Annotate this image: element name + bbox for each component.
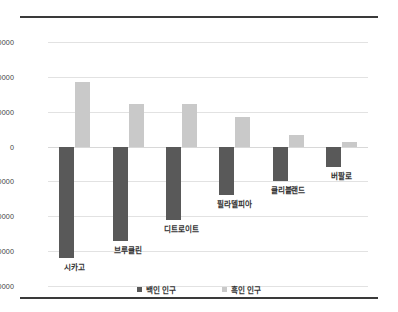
gridline-1500000 [48, 42, 368, 43]
y-tick-label--1500000: -1500000 [0, 247, 14, 256]
bar-브루클린-흑인 인구 [129, 104, 144, 147]
gridline-500000 [48, 112, 368, 113]
y-tick-label-1000000: 1000000 [0, 72, 14, 81]
y-tick-label-1500000: 1500000 [0, 38, 14, 47]
legend-swatch-icon [137, 287, 142, 292]
category-label-필라델피아: 필라델피아 [217, 198, 252, 209]
gridline--1500000 [48, 251, 368, 252]
chart-legend: 백인 인구흑인 인구 [0, 284, 398, 295]
category-label-디트로이트: 디트로이트 [164, 223, 199, 234]
bar-클리블랜드-흑인 인구 [289, 135, 304, 147]
gridline-0 [48, 147, 368, 148]
y-tick-label--1000000: -1000000 [0, 212, 14, 221]
y-tick-label-0: 0 [0, 142, 14, 151]
bar-브루클린-백인 인구 [113, 147, 128, 241]
y-tick-label--500000: -500000 [0, 177, 14, 186]
legend-label: 흑인 인구 [231, 284, 261, 295]
category-label-버팔로: 버팔로 [331, 170, 352, 181]
bar-버팔로-흑인 인구 [342, 142, 357, 147]
gridline--500000 [48, 181, 368, 182]
bar-필라델피아-흑인 인구 [235, 117, 250, 146]
bar-버팔로-백인 인구 [326, 147, 341, 168]
gridline--1000000 [48, 216, 368, 217]
bar-디트로이트-백인 인구 [166, 147, 181, 220]
bar-시카고-흑인 인구 [75, 82, 90, 146]
top-divider-rule [20, 16, 378, 18]
population-bar-chart: 150000010000005000000-500000-1000000-150… [0, 22, 398, 294]
legend-item-흑인 인구[interactable]: 흑인 인구 [222, 284, 261, 295]
legend-label: 백인 인구 [146, 284, 176, 295]
bar-시카고-백인 인구 [59, 147, 74, 259]
legend-swatch-icon [222, 287, 227, 292]
gridline-1000000 [48, 77, 368, 78]
bottom-divider-rule [20, 297, 378, 299]
bar-디트로이트-흑인 인구 [182, 104, 197, 147]
category-label-시카고: 시카고 [64, 261, 85, 272]
category-label-클리블랜드: 클리블랜드 [271, 184, 306, 195]
bar-필라델피아-백인 인구 [219, 147, 234, 195]
legend-item-백인 인구[interactable]: 백인 인구 [137, 284, 176, 295]
category-label-브루클린: 브루클린 [114, 244, 142, 255]
y-tick-label-500000: 500000 [0, 107, 14, 116]
plot-area: 150000010000005000000-500000-1000000-150… [48, 42, 368, 286]
chart-page: 150000010000005000000-500000-1000000-150… [0, 0, 398, 312]
bar-클리블랜드-백인 인구 [273, 147, 288, 181]
